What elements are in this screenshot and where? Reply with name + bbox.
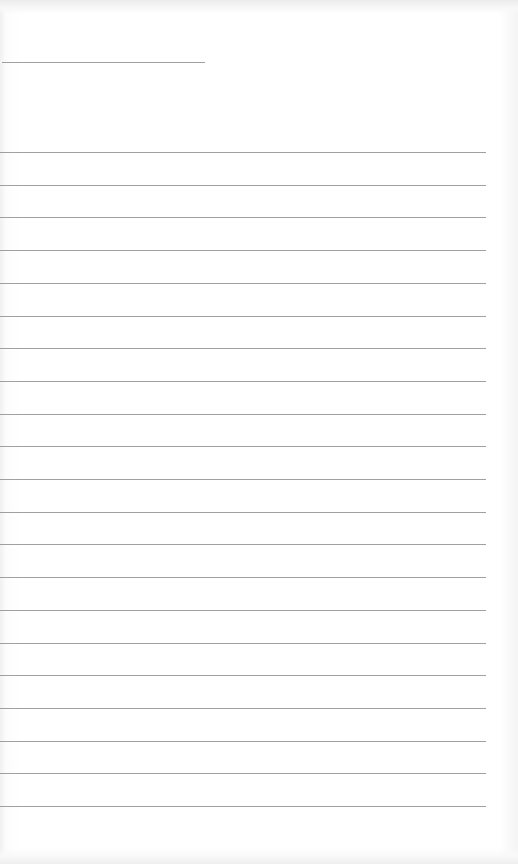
ruled-line — [0, 741, 486, 742]
ruled-line — [0, 446, 486, 447]
ruled-line — [0, 773, 486, 774]
ruled-line — [0, 283, 486, 284]
ruled-line — [0, 185, 486, 186]
ruled-line — [0, 610, 486, 611]
ruled-line — [0, 381, 486, 382]
ruled-line — [0, 512, 486, 513]
ruled-line — [0, 544, 486, 545]
ruled-line — [0, 643, 486, 644]
ruled-line — [0, 414, 486, 415]
ruled-line — [0, 675, 486, 676]
ruled-line — [0, 152, 486, 153]
ruled-line — [0, 348, 486, 349]
ruled-line — [0, 577, 486, 578]
lined-paper-page — [0, 0, 518, 864]
ruled-line — [0, 316, 486, 317]
ruled-line — [0, 708, 486, 709]
ruled-line — [0, 479, 486, 480]
ruled-lines — [0, 0, 518, 864]
ruled-line — [0, 250, 486, 251]
ruled-line — [0, 217, 486, 218]
ruled-line — [0, 806, 486, 807]
scan-bottom-edge — [0, 848, 518, 864]
